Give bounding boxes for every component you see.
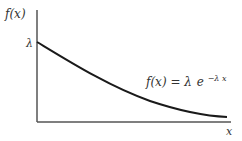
chart: f(x) λ x f(x) = λ e −λ x <box>0 0 242 141</box>
y-axis-label: f(x) <box>4 7 26 21</box>
formula-exponent: −λ x <box>208 74 227 83</box>
formula-lhs: f(x) = λ <box>145 75 192 89</box>
formula-e: e <box>197 75 204 89</box>
x-axis-label: x <box>226 125 233 138</box>
lambda-tick-label: λ <box>25 37 33 50</box>
formula-annotation: f(x) = λ e −λ x <box>145 74 227 89</box>
